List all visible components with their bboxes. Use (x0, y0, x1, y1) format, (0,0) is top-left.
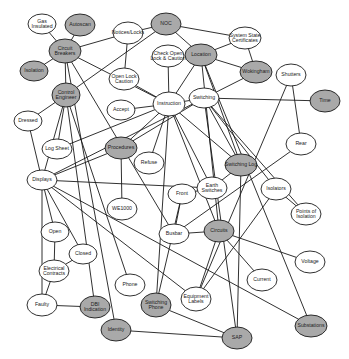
node-displays: Displays (27, 170, 57, 190)
node-label: Insulated (31, 23, 52, 29)
node-switching-log: Switching Log (225, 154, 257, 176)
edge-switching-log-to-sap (237, 165, 241, 338)
node-label: Caution (115, 78, 133, 84)
edge-instruction-to-earth-switches (169, 104, 212, 188)
node-check-open-lock: Check OpenLock & Caution (150, 45, 185, 67)
node-label: Lock & Caution (150, 55, 185, 61)
node-label: Dressed (18, 117, 37, 123)
node-label: Engineer (56, 94, 77, 100)
node-circuit-breakers: CircuitBreakers (49, 39, 81, 63)
node-label: Phone (122, 281, 137, 287)
node-shutters: Shutters (276, 64, 306, 86)
node-label: Accept (113, 106, 129, 112)
node-label: Autoscan (69, 21, 91, 27)
node-label: Current (253, 276, 271, 282)
node-points-of-isolation: Points ofIsolation (291, 203, 321, 225)
node-label: Busbar (166, 230, 183, 236)
node-autoscan: Autoscan (65, 14, 95, 36)
node-label: Breakers (55, 50, 76, 56)
node-electrical-contracts: ElectricalContracts (39, 260, 69, 282)
node-sap: SAP (222, 327, 252, 349)
node-front: Front (168, 184, 196, 204)
node-switching-phone: SwitchingPhone (141, 293, 171, 317)
node-label: Switches (202, 187, 223, 193)
node-label: Indication (84, 306, 106, 312)
node-noc: NOC (151, 13, 181, 35)
node-instruction: Instruction (153, 92, 185, 116)
node-isolation: Isolation (20, 61, 48, 81)
node-label: Closed (75, 250, 91, 256)
node-dbi-indication: DBIIndication (80, 296, 110, 318)
node-label: Switching Log (225, 161, 257, 167)
node-label: SAP (232, 334, 243, 340)
node-log-sheet: Log Sheet (42, 139, 72, 159)
node-label: Certificates (232, 37, 258, 43)
node-label: Faulty (35, 301, 50, 307)
node-dressed: Dressed (14, 111, 42, 131)
node-label: Open (49, 228, 62, 234)
node-label: Time (319, 97, 330, 103)
node-label: Labels (188, 298, 204, 304)
node-voltage: Voltage (295, 251, 325, 273)
node-location: Location (185, 44, 217, 66)
node-control-engineer: ControlEngineer (52, 83, 80, 107)
node-label: Circuits (210, 227, 228, 233)
node-label: Isolators (266, 185, 286, 191)
knowledge-network-diagram: GasInsulatedAutoscanNOCNotices/LocksSyst… (0, 0, 349, 359)
edge-control-engineer-to-displays (42, 95, 66, 180)
node-label: Rear (295, 140, 307, 146)
node-label: Substations (297, 322, 325, 328)
node-label: Contracts (43, 270, 66, 276)
node-label: Notices/Locks (112, 29, 145, 35)
node-notices-locks: Notices/Locks (112, 22, 145, 44)
node-identity: Identity (101, 319, 131, 341)
node-label: NOC (160, 20, 172, 26)
node-open-lock-caution: Open LockCaution (109, 68, 139, 90)
node-substations: Substations (295, 315, 327, 337)
node-label: Switching (193, 94, 215, 100)
node-isolators: Isolators (261, 178, 291, 200)
node-label: Identity (108, 326, 125, 332)
node-system-state-certificates: System StateCertificates (229, 27, 261, 49)
node-label: Log Sheet (45, 145, 69, 151)
node-label: Wokingham (242, 68, 269, 74)
node-we1000: WE1000 (107, 198, 137, 220)
node-phone: Phone (115, 274, 145, 296)
node-refuse: Refuse (134, 152, 164, 174)
node-label: Instruction (157, 100, 181, 106)
node-label: Procedures (108, 144, 135, 150)
edge-switching-to-time (204, 98, 325, 101)
node-label: Phone (148, 304, 163, 310)
node-current: Current (247, 269, 277, 291)
node-time: Time (310, 90, 340, 112)
node-open: Open (41, 222, 69, 242)
edge-instruction-to-switching-phone (156, 104, 169, 305)
edge-identity-to-sap (116, 330, 237, 338)
node-label: Displays (32, 176, 52, 182)
node-label: Refuse (141, 159, 158, 165)
node-wokingham: Wokingham (240, 61, 272, 83)
node-accept: Accept (107, 100, 135, 120)
edge-instruction-to-circuits (169, 104, 219, 231)
node-label: Location (191, 51, 211, 57)
node-earth-switches: EarthSwitches (197, 177, 227, 199)
node-procedures: Procedures (105, 137, 137, 159)
node-switching: Switching (189, 88, 219, 108)
node-label: Shutters (281, 71, 301, 77)
node-label: Front (176, 190, 189, 196)
node-gas-insulated: GasInsulated (28, 14, 56, 34)
node-label: Isolation (296, 213, 315, 219)
node-busbar: Busbar (159, 224, 189, 244)
node-closed: Closed (69, 244, 97, 264)
node-faulty: Faulty (27, 294, 57, 316)
node-circuits: Circuits (204, 220, 234, 242)
node-equipment-labels: EquipmentLabels (181, 287, 211, 311)
node-label: Isolation (24, 67, 43, 73)
node-label: Voltage (301, 258, 318, 264)
node-rear: Rear (286, 133, 316, 155)
node-label: WE1000 (112, 205, 132, 211)
